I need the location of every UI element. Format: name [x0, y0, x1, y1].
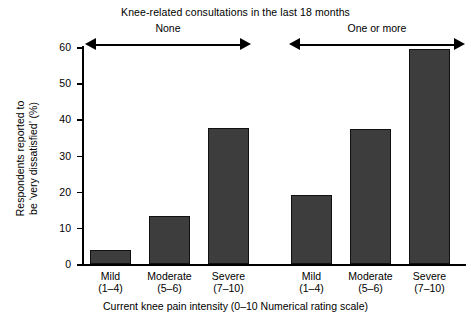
x-axis-category-label: Severe(7–10) — [392, 270, 467, 294]
y-axis-tick-label: 0 — [45, 259, 71, 270]
arrow-left-icon — [289, 38, 300, 50]
y-axis-title: Respondents reported to be ‘very dissati… — [14, 50, 39, 267]
category-name: Severe — [413, 270, 446, 282]
bar — [350, 129, 391, 264]
y-axis-tick-label: 30 — [45, 151, 71, 162]
y-axis-tick — [77, 47, 82, 49]
y-axis-tick — [77, 264, 82, 266]
y-axis-tick-label: 50 — [45, 78, 71, 89]
category-range: (7–10) — [392, 282, 467, 294]
y-axis-tick-label: 40 — [45, 114, 71, 125]
y-axis-title-line2: be ‘very dissatisfied’ (%) — [27, 50, 40, 267]
arrow-line — [298, 44, 456, 46]
category-name: Mild — [302, 270, 321, 282]
category-name: Moderate — [348, 270, 392, 282]
group-annotation-one-or-more: One or more — [289, 22, 465, 52]
x-axis-title: Current knee pain intensity (0–10 Numeri… — [0, 300, 471, 312]
y-axis-tick — [77, 83, 82, 85]
arrow-right-icon — [454, 38, 465, 50]
group-annotation-one-or-more-label: One or more — [289, 22, 465, 34]
y-axis-tick-label: 20 — [45, 187, 71, 198]
bar-chart-figure: Knee-related consultations in the last 1… — [0, 0, 471, 317]
category-name: Mild — [101, 270, 120, 282]
group-annotation-none: None — [85, 22, 251, 52]
category-range: (7–10) — [191, 282, 266, 294]
y-axis-tick-label: 10 — [45, 223, 71, 234]
group-annotation-none-label: None — [85, 22, 251, 34]
x-axis-line — [82, 264, 466, 266]
bar — [149, 216, 190, 264]
y-axis-tick — [77, 192, 82, 194]
chart-group-title: Knee-related consultations in the last 1… — [0, 6, 471, 18]
x-axis-category-label: Severe(7–10) — [191, 270, 266, 294]
category-name: Severe — [212, 270, 245, 282]
y-axis-title-line1: Respondents reported to — [14, 101, 26, 217]
arrow-left-icon — [85, 38, 96, 50]
y-axis-tick — [77, 156, 82, 158]
arrow-right-icon — [240, 38, 251, 50]
y-axis-tick — [77, 119, 82, 121]
bar — [409, 49, 450, 264]
y-axis-tick — [77, 228, 82, 230]
y-axis-line — [82, 46, 84, 265]
bar — [90, 250, 131, 264]
category-name: Moderate — [147, 270, 191, 282]
bar — [208, 128, 249, 264]
bar — [291, 195, 332, 264]
arrow-line — [94, 44, 242, 46]
y-axis-tick-label: 60 — [45, 42, 71, 53]
